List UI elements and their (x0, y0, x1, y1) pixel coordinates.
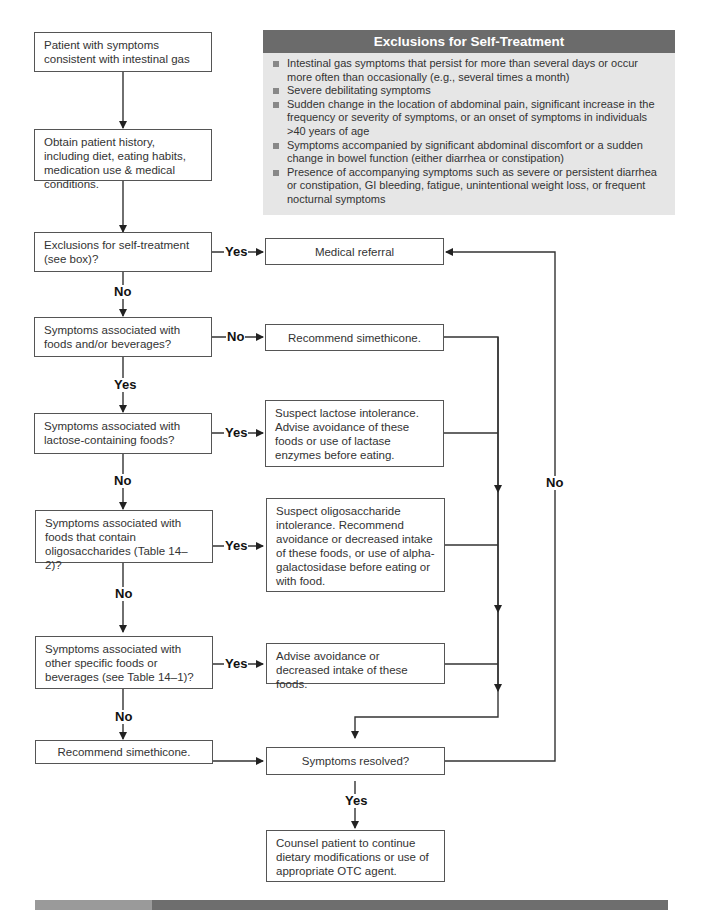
edge-label-oligo-yes: Yes (224, 539, 248, 553)
exclusions-panel: Exclusions for Self-Treatment Intestinal… (263, 30, 675, 215)
exclusions-list: Intestinal gas symptoms that persist for… (263, 57, 675, 207)
square-bullet-icon (273, 88, 279, 94)
footer-bar-light (35, 900, 152, 910)
footer-bar-dark (152, 900, 668, 910)
node-oligosaccharide-action: Suspect oligosaccharide intolerance. Rec… (266, 498, 445, 592)
edge-label-exclusions-yes: Yes (224, 245, 248, 259)
node-medical-referral: Medical referral (265, 238, 444, 265)
edge-label-lactose-yes: Yes (224, 426, 248, 440)
node-q-resolved: Symptoms resolved? (266, 747, 445, 775)
node-history: Obtain patient history, including diet, … (34, 129, 212, 181)
node-lactose-action: Suspect lactose intolerance. Advise avoi… (265, 400, 444, 467)
edge-label-oligo-no: No (114, 587, 133, 601)
node-q-foods: Symptoms associated with foods and/or be… (34, 317, 212, 357)
square-bullet-icon (273, 102, 279, 108)
square-bullet-icon (273, 61, 279, 67)
node-other-action: Advise avoidance or decreased intake of … (266, 643, 445, 684)
node-start: Patient with symptoms consistent with in… (34, 32, 212, 72)
node-counsel: Counsel patient to continue dietary modi… (266, 830, 445, 882)
exclusion-item: Presence of accompanying symptoms such a… (271, 166, 665, 207)
edge-label-other-no: No (114, 710, 133, 724)
exclusion-item: Sudden change in the location of abdomin… (271, 98, 665, 139)
node-q-other-foods: Symptoms associated with other specific … (35, 636, 213, 689)
square-bullet-icon (273, 143, 279, 149)
edge-label-exclusions-no: No (113, 285, 132, 299)
node-q-oligosaccharides: Symptoms associated with foods that cont… (35, 510, 213, 563)
node-simethicone-2: Recommend simethicone. (35, 740, 213, 764)
exclusion-item: Severe debilitating symptoms (271, 84, 665, 98)
exclusions-panel-title: Exclusions for Self-Treatment (263, 30, 675, 53)
exclusion-item: Symptoms accompanied by significant abdo… (271, 139, 665, 166)
edge-label-other-yes: Yes (224, 657, 248, 671)
edge-label-resolved-yes: Yes (344, 794, 368, 808)
edge-label-foods-no: No (226, 330, 245, 344)
edge-label-foods-yes: Yes (113, 378, 137, 392)
edge-label-lactose-no: No (113, 474, 132, 488)
square-bullet-icon (273, 170, 279, 176)
edge-label-resolved-no: No (545, 476, 564, 490)
node-q-lactose: Symptoms associated with lactose-contain… (34, 413, 212, 454)
node-simethicone-1: Recommend simethicone. (265, 324, 444, 351)
exclusion-item: Intestinal gas symptoms that persist for… (271, 57, 665, 84)
node-q-exclusions: Exclusions for self-treatment (see box)? (34, 232, 212, 272)
